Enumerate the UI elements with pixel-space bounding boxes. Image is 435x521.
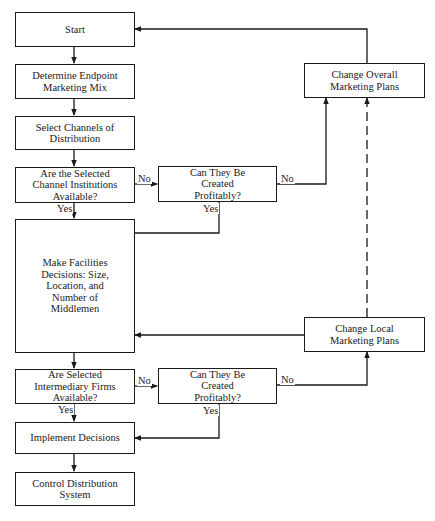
node-select-channels-label: Select Channels of Distribution (22, 122, 128, 145)
node-facilities: Make Facilities Decisions: Size, Locatio… (15, 219, 135, 353)
arrow-create1-no (276, 98, 326, 184)
arrow-overall-to-start (135, 29, 367, 63)
node-select-channels: Select Channels of Distribution (15, 116, 135, 150)
node-firms-available-label: Are Selected Intermediary Firms Availabl… (22, 369, 128, 404)
label-firms-yes: Yes (57, 404, 74, 415)
node-change-local: Change Local Marketing Plans (304, 317, 425, 352)
label-create2-yes: Yes (202, 405, 219, 416)
node-start-label: Start (65, 24, 85, 36)
node-institutions-available: Are the Selected Channel Institutions Av… (15, 167, 135, 203)
node-create-profitably-1-label: Can They Be Created Profitably? (181, 167, 254, 202)
node-start: Start (15, 12, 135, 47)
label-create1-yes: Yes (202, 203, 219, 214)
label-create1-no: No (280, 173, 295, 184)
node-control-label: Control Distribution System (22, 478, 128, 501)
label-institutions-yes: Yes (56, 203, 73, 214)
label-firms-no: No (137, 375, 152, 386)
node-create-profitably-2: Can They Be Created Profitably? (158, 368, 277, 404)
node-implement: Implement Decisions (15, 422, 135, 454)
node-change-local-label: Change Local Marketing Plans (329, 323, 400, 346)
node-implement-label: Implement Decisions (30, 432, 120, 444)
node-control: Control Distribution System (15, 472, 135, 506)
node-institutions-available-label: Are the Selected Channel Institutions Av… (22, 168, 128, 203)
node-change-overall: Change Overall Marketing Plans (304, 63, 425, 98)
label-create2-no: No (280, 374, 295, 385)
node-endpoint-mix-label: Determine Endpoint Marketing Mix (22, 70, 128, 93)
node-firms-available: Are Selected Intermediary Firms Availabl… (15, 369, 135, 404)
node-create-profitably-1: Can They Be Created Profitably? (158, 166, 277, 202)
label-institutions-no: No (137, 173, 152, 184)
node-create-profitably-2-label: Can They Be Created Profitably? (181, 369, 254, 404)
node-endpoint-mix: Determine Endpoint Marketing Mix (15, 64, 135, 99)
node-facilities-label: Make Facilities Decisions: Size, Locatio… (38, 257, 112, 315)
node-change-overall-label: Change Overall Marketing Plans (323, 69, 406, 92)
